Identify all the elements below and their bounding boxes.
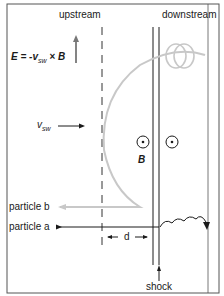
upstream-label: upstream <box>59 10 101 20</box>
downstream-label: downstream <box>162 10 216 20</box>
particle-a-label: particle a <box>9 222 50 232</box>
e-field-arrowhead <box>73 35 79 42</box>
particle-a-arrowhead <box>56 225 62 230</box>
d-arrowhead-left <box>107 235 112 239</box>
shock-label: shock <box>146 282 172 292</box>
particle-b-trajectory <box>60 52 205 207</box>
d-arrowhead-right <box>143 235 148 239</box>
electric-field-equation: E = -vsw × B <box>11 52 65 64</box>
frame <box>7 4 219 293</box>
vsw-sub: sw <box>42 125 51 132</box>
shock-pointer-arrowhead <box>157 265 161 271</box>
vsw-arrowhead <box>79 124 85 129</box>
particle-b-label: particle b <box>9 202 50 212</box>
particle-b-arrowhead <box>58 204 66 210</box>
b-field-label: B <box>138 155 145 165</box>
particle-a-gyro-trajectory <box>160 217 206 227</box>
equation-tail: × B <box>47 51 66 62</box>
equation-e-prefix: E = -v <box>11 51 38 62</box>
distance-d-label: d <box>124 232 130 242</box>
shock-diagram <box>0 0 224 296</box>
particle-a-end-arrowhead <box>203 222 210 230</box>
equation-sw-sub: sw <box>38 57 47 64</box>
vsw-label: vsw <box>37 120 51 132</box>
